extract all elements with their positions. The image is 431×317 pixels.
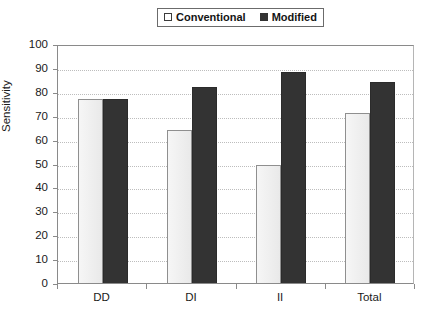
x-tick-label-dd: DD xyxy=(57,292,146,304)
x-tick-label-ii: II xyxy=(236,292,325,304)
x-tick-mark xyxy=(414,284,415,289)
x-tick-mark xyxy=(325,284,326,289)
x-tick-label-total: Total xyxy=(325,292,414,304)
x-tick-label-di: DI xyxy=(146,292,235,304)
x-axis-ticks: DDDIIITotal xyxy=(0,0,431,317)
x-tick-mark xyxy=(146,284,147,289)
x-tick-mark xyxy=(57,284,58,289)
x-tick-mark xyxy=(236,284,237,289)
bar-chart: Conventional Modified Sensitivity 010203… xyxy=(0,0,431,317)
